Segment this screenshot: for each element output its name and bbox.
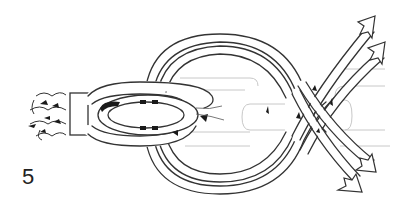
knot-illustration: [0, 0, 406, 216]
step-number-label: 5: [22, 166, 34, 188]
braided-rope-end: [28, 92, 72, 140]
knot-diagram: 5: [0, 0, 406, 216]
eye-loop: [88, 82, 224, 146]
